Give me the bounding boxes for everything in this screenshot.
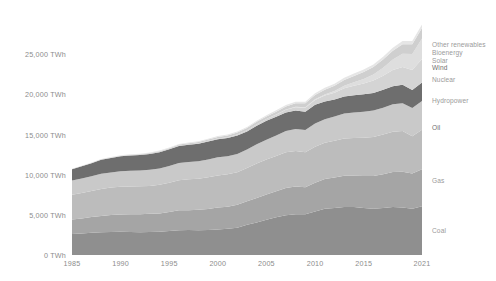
energy-stacked-area-chart: 0 TWh5,000 TWh10,000 TWh15,000 TWh20,000… [0, 0, 496, 281]
x-tick-label: 2000 [209, 259, 226, 268]
series-label-coal: Coal [432, 227, 446, 235]
y-tick-label: 5,000 TWh [0, 210, 66, 219]
x-tick-label: 1985 [64, 259, 81, 268]
y-tick-label: 10,000 TWh [0, 170, 66, 179]
plot-area [0, 0, 496, 281]
series-label-nuclear: Nuclear [432, 76, 455, 84]
y-tick-label: 15,000 TWh [0, 130, 66, 139]
y-tick-label: 0 TWh [0, 251, 66, 260]
series-label-hydropower: Hydropower [432, 97, 469, 105]
series-label-wind: Wind [432, 64, 447, 72]
series-label-oil: Oil [432, 124, 440, 132]
area-series-group [72, 25, 422, 255]
x-tick-label: 2021 [414, 259, 431, 268]
y-tick-label: 25,000 TWh [0, 50, 66, 59]
x-tick-label: 2005 [258, 259, 275, 268]
x-tick-label: 2010 [307, 259, 324, 268]
y-tick-label: 20,000 TWh [0, 90, 66, 99]
x-tick-label: 1995 [161, 259, 178, 268]
x-tick-label: 1990 [112, 259, 129, 268]
series-label-other-renewables: Other renewables [432, 41, 486, 49]
x-tick-label: 2015 [355, 259, 372, 268]
series-label-gas: Gas [432, 177, 444, 185]
